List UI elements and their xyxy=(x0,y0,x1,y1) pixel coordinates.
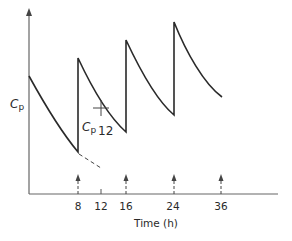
dose-arrow-icon xyxy=(219,174,224,194)
dose-arrow-icon xyxy=(172,174,177,194)
chart-canvas xyxy=(0,0,292,241)
y-axis-label-sub: p xyxy=(18,102,24,112)
extrapolation-dashed-line xyxy=(79,154,101,168)
cross-marker-icon xyxy=(93,100,109,116)
annotation-num: 12 xyxy=(98,124,113,138)
dose-arrow-icon xyxy=(124,174,129,194)
x-tick-label: 16 xyxy=(119,201,132,212)
y-axis-arrow-icon xyxy=(26,8,32,16)
dose-arrows xyxy=(76,174,224,194)
y-axis-label: Cp xyxy=(10,98,24,112)
x-tick-label: 24 xyxy=(166,201,179,212)
cp12-annotation: Cp12 xyxy=(82,121,113,137)
x-tick-label: 36 xyxy=(214,201,227,212)
concentration-curve xyxy=(29,22,222,152)
y-axis xyxy=(26,8,32,194)
dose-arrow-icon xyxy=(76,174,81,194)
x-tick-label: 8 xyxy=(75,201,82,212)
x-tick-label: 12 xyxy=(94,201,107,212)
x-axis-label: Time (h) xyxy=(134,218,178,229)
x-axis xyxy=(29,189,278,194)
annotation-sub: p xyxy=(90,125,96,135)
